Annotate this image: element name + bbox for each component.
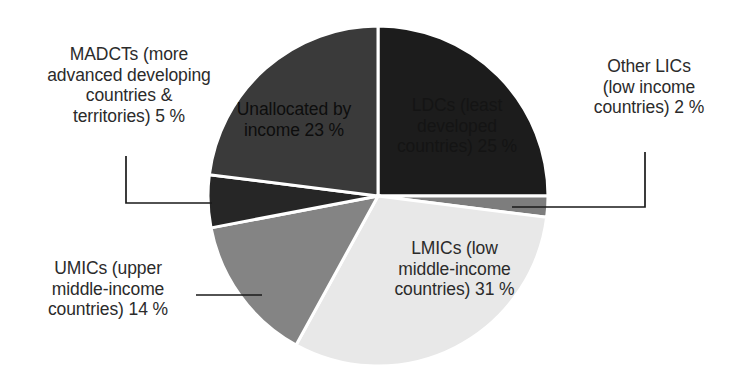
callout-label-madcts: MADCTs (more advanced developing countri… <box>18 44 240 126</box>
inner-label-unallocated: Unallocated by income 23 % <box>212 99 376 140</box>
pie-chart-figure: MADCTs (more advanced developing countri… <box>0 0 732 374</box>
pie-slices <box>208 26 548 366</box>
inner-label-lmics: LMICs (low middle-income countries) 31 % <box>372 238 537 300</box>
leader-line-madcts <box>126 156 212 203</box>
callout-label-other-lics: Other LICs (low income countries) 2 % <box>574 56 724 118</box>
callout-label-umics: UMICs (upper middle-income countries) 14… <box>8 258 208 320</box>
inner-label-ldcs: LDCs (least developed countries) 25 % <box>386 95 528 157</box>
